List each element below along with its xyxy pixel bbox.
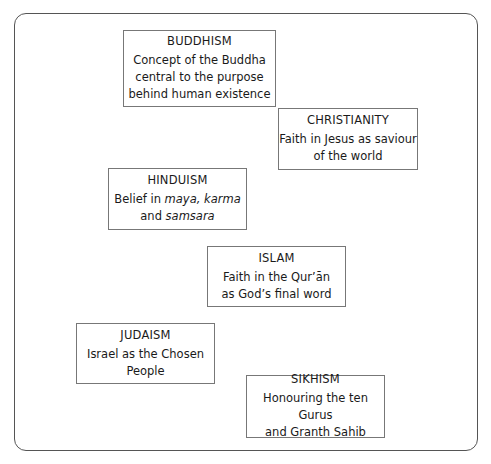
judaism-title: JUDAISM [77,328,214,342]
hinduism-box: HINDUISM Belief in maya, karma and samsa… [108,168,247,230]
buddhism-description: Concept of the Buddha central to the pur… [124,52,275,103]
hinduism-title: HINDUISM [109,173,246,187]
islam-box: ISLAM Faith in the Qur’ān as God’s final… [207,246,346,307]
christianity-title: CHRISTIANITY [279,113,417,127]
christianity-box: CHRISTIANITY Faith in Jesus as saviour o… [278,108,418,170]
judaism-box: JUDAISM Israel as the Chosen People [76,323,215,384]
islam-title: ISLAM [208,251,345,265]
sikhism-description: Honouring the ten Gurus and Granth Sahib [247,390,384,441]
judaism-description: Israel as the Chosen People [77,346,214,380]
christianity-description: Faith in Jesus as saviour of the world [279,131,417,165]
hinduism-description: Belief in maya, karma and samsara [109,191,246,225]
sikhism-box: SIKHISM Honouring the ten Gurus and Gran… [246,375,385,438]
buddhism-box: BUDDHISM Concept of the Buddha central t… [123,30,276,107]
islam-description: Faith in the Qur’ān as God’s final word [208,269,345,303]
sikhism-title: SIKHISM [247,372,384,386]
buddhism-title: BUDDHISM [124,34,275,48]
